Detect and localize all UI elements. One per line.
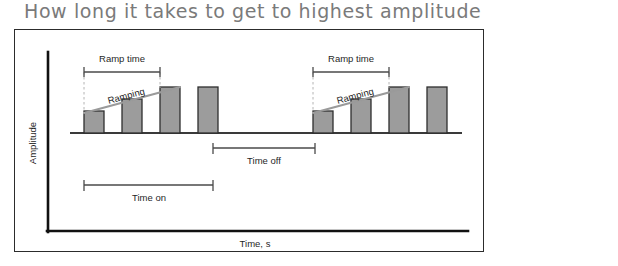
time-on-bracket [84, 180, 213, 191]
pulse-bar [351, 99, 371, 133]
pulse-bar [198, 87, 218, 133]
ramp-time-bracket-left [84, 67, 160, 77]
pulse-bar [84, 111, 104, 133]
time-on-label: Time on [132, 192, 166, 203]
pulse-bar [313, 111, 333, 133]
ramp-time-bracket-right [313, 67, 389, 77]
y-axis-label: Amplitude [27, 122, 38, 164]
time-off-bracket [213, 143, 315, 154]
pulse-bar [389, 87, 409, 133]
pulse-bar [427, 87, 447, 133]
pulse-bar [122, 99, 142, 133]
pulse-waveform-diagram: Ramp time Ramping Ramp time Ramping Time… [0, 0, 618, 266]
time-off-label: Time off [247, 155, 281, 166]
x-axis-label: Time, s [240, 238, 271, 249]
ramp-time-label-left: Ramp time [99, 53, 145, 64]
ramp-time-label-right: Ramp time [328, 53, 374, 64]
pulse-bar [160, 87, 180, 133]
